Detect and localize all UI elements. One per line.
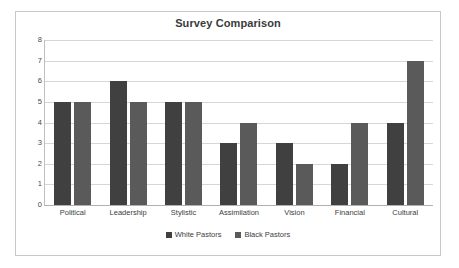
bar-group	[211, 40, 266, 205]
x-axis-tick-label: Assimilation	[219, 208, 259, 217]
bar[interactable]	[296, 164, 313, 205]
y-axis-tick-label: 8	[20, 36, 42, 44]
y-axis-tick-label: 1	[20, 181, 42, 189]
y-axis-tick-label: 6	[20, 78, 42, 86]
x-axis-tick-label: Cultural	[392, 208, 418, 217]
bar[interactable]	[130, 102, 147, 205]
x-axis-tick-label: Vision	[284, 208, 304, 217]
bar[interactable]	[110, 81, 127, 205]
bar[interactable]	[387, 123, 404, 206]
x-axis-tick-label: Leadership	[110, 208, 147, 217]
bar-group	[267, 40, 322, 205]
y-axis-tick-label: 3	[20, 139, 42, 147]
legend-swatch-icon	[166, 232, 172, 238]
bar[interactable]	[240, 123, 257, 206]
y-axis-tick-label: 2	[20, 160, 42, 168]
legend-entry[interactable]: White Pastors	[166, 230, 222, 239]
chart-container: Survey Comparison 012345678 PoliticalLea…	[15, 11, 441, 256]
y-axis-tick-label: 5	[20, 98, 42, 106]
bar[interactable]	[407, 61, 424, 205]
bar-group	[322, 40, 377, 205]
bar[interactable]	[351, 123, 368, 206]
bar[interactable]	[220, 143, 237, 205]
bar[interactable]	[185, 102, 202, 205]
y-axis-tick-label: 7	[20, 57, 42, 65]
y-axis-tick-label: 4	[20, 119, 42, 127]
x-axis-tick-label: Stylistic	[171, 208, 196, 217]
bar[interactable]	[74, 102, 91, 205]
chart-title: Survey Comparison	[16, 17, 440, 29]
bar-group	[45, 40, 100, 205]
legend-label: White Pastors	[175, 230, 222, 239]
bar[interactable]	[276, 143, 293, 205]
bar-group	[378, 40, 433, 205]
legend-entry[interactable]: Black Pastors	[235, 230, 290, 239]
bar[interactable]	[331, 164, 348, 205]
legend-label: Black Pastors	[244, 230, 290, 239]
bar-group	[156, 40, 211, 205]
x-axis-tick-labels: PoliticalLeadershipStylisticAssimilation…	[45, 208, 433, 224]
gridline	[45, 205, 433, 206]
bar[interactable]	[54, 102, 71, 205]
chart-legend: White PastorsBlack Pastors	[16, 230, 440, 239]
x-axis-tick-label: Political	[60, 208, 86, 217]
x-axis-tick-label: Financial	[335, 208, 365, 217]
bar-group	[100, 40, 155, 205]
legend-swatch-icon	[235, 232, 241, 238]
plot-area	[45, 40, 433, 205]
y-axis-tick-labels: 012345678	[16, 40, 42, 205]
bars-layer	[45, 40, 433, 205]
y-axis-tick-label: 0	[20, 201, 42, 209]
bar[interactable]	[165, 102, 182, 205]
